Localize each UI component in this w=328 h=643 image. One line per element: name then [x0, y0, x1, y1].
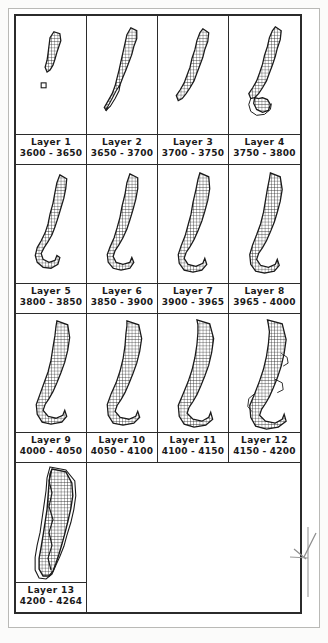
layer-caption: Layer 4 3750 - 3800 [229, 134, 300, 164]
layer-name: Layer 10 [87, 435, 157, 446]
layer-cell: Layer 12 4150 - 4200 [229, 314, 300, 463]
layer-caption: Layer 5 3800 - 3850 [16, 283, 86, 313]
layer-shape-3 [158, 16, 228, 134]
layer-caption: Layer 10 4050 - 4100 [87, 432, 157, 462]
layer-range: 3600 - 3650 [16, 148, 86, 159]
layer-name: Layer 2 [87, 137, 157, 148]
layer-name: Layer 13 [16, 585, 86, 596]
layer-range: 4000 - 4050 [16, 446, 86, 457]
empty-cell [229, 463, 300, 612]
layer-cell: Layer 4 3750 - 3800 [229, 16, 300, 165]
layer-shape-13 [16, 463, 86, 582]
layer-cell: Layer 10 4050 - 4100 [87, 314, 158, 463]
layer-name: Layer 12 [229, 435, 300, 446]
layer-range: 4100 - 4150 [158, 446, 228, 457]
layer-range: 3700 - 3750 [158, 148, 228, 159]
layer-caption: Layer 6 3850 - 3900 [87, 283, 157, 313]
layer-name: Layer 6 [87, 286, 157, 297]
layer-shape-4 [229, 16, 300, 134]
layer-caption: Layer 2 3650 - 3700 [87, 134, 157, 164]
layer-caption: Layer 7 3900 - 3965 [158, 283, 228, 313]
layer-name: Layer 11 [158, 435, 228, 446]
layer-shape-8 [229, 165, 300, 283]
layer-name: Layer 1 [16, 137, 86, 148]
layer-name: Layer 5 [16, 286, 86, 297]
layer-cell: Layer 11 4100 - 4150 [158, 314, 229, 463]
layer-range: 3965 - 4000 [229, 297, 300, 308]
layer-caption: Layer 13 4200 - 4264 [16, 582, 86, 612]
layer-name: Layer 8 [229, 286, 300, 297]
layer-shape-12 [229, 314, 300, 432]
layer-shape-6 [87, 165, 157, 283]
layer-caption: Layer 8 3965 - 4000 [229, 283, 300, 313]
figure-canvas: Layer 1 3600 - 3650 Layer 2 3650 - [0, 0, 328, 643]
layer-name: Layer 4 [229, 137, 300, 148]
layer-cell: Layer 7 3900 - 3965 [158, 165, 229, 314]
layer-name: Layer 9 [16, 435, 86, 446]
layer-shape-2 [87, 16, 157, 134]
layer-range: 3650 - 3700 [87, 148, 157, 159]
layer-range: 4050 - 4100 [87, 446, 157, 457]
layer-shape-5 [16, 165, 86, 283]
layer-shape-9 [16, 314, 86, 432]
layer-cell: Layer 1 3600 - 3650 [16, 16, 87, 165]
layer-caption: Layer 9 4000 - 4050 [16, 432, 86, 462]
layer-range: 3800 - 3850 [16, 297, 86, 308]
layer-range: 3750 - 3800 [229, 148, 300, 159]
layer-caption: Layer 11 4100 - 4150 [158, 432, 228, 462]
empty-cell [87, 463, 158, 612]
layer-shape-1 [16, 16, 86, 134]
layer-shape-10 [87, 314, 157, 432]
layer-name: Layer 3 [158, 137, 228, 148]
layer-range: 4150 - 4200 [229, 446, 300, 457]
layer-caption: Layer 1 3600 - 3650 [16, 134, 86, 164]
layer-caption: Layer 12 4150 - 4200 [229, 432, 300, 462]
layer-shape-7 [158, 165, 228, 283]
layer-range: 3850 - 3900 [87, 297, 157, 308]
layer-cell: Layer 8 3965 - 4000 [229, 165, 300, 314]
empty-cell [158, 463, 229, 612]
layer-caption: Layer 3 3700 - 3750 [158, 134, 228, 164]
layer-range: 4200 - 4264 [16, 596, 86, 607]
layer-cell: Layer 6 3850 - 3900 [87, 165, 158, 314]
layer-shape-11 [158, 314, 228, 432]
layer-cell: Layer 3 3700 - 3750 [158, 16, 229, 165]
layer-cell: Layer 2 3650 - 3700 [87, 16, 158, 165]
layer-grid: Layer 1 3600 - 3650 Layer 2 3650 - [16, 16, 300, 612]
layer-range: 3900 - 3965 [158, 297, 228, 308]
layer-cell: Layer 13 4200 - 4264 [16, 463, 87, 612]
layer-cell: Layer 9 4000 - 4050 [16, 314, 87, 463]
layer-name: Layer 7 [158, 286, 228, 297]
layer-cell: Layer 5 3800 - 3850 [16, 165, 87, 314]
